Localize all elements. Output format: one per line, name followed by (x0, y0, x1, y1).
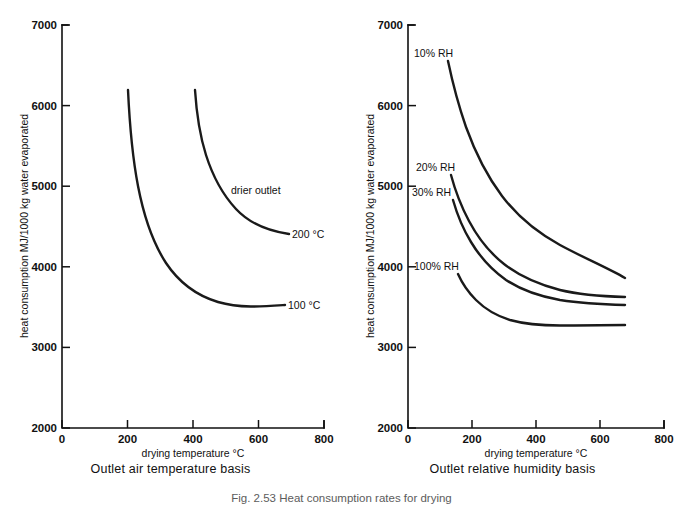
curve-20rh-path (451, 175, 625, 297)
x-axis-title: drying temperature °C (485, 447, 588, 459)
axis-lines (408, 25, 664, 428)
curve-label-100rh: 100% RH (414, 260, 459, 272)
x-axis-title: drying temperature °C (142, 447, 245, 459)
y-tick-label: 7000 (377, 19, 403, 31)
x-tick-label: 0 (405, 433, 411, 445)
y-tick-label: 4000 (31, 261, 57, 273)
y-axis-title: heat consumption MJ/1000 kg water evapor… (364, 114, 376, 338)
figure-root: 2000 3000 4000 5000 6000 7000 0 200 400 … (0, 0, 683, 505)
panel-caption-left: Outlet air temperature basis (0, 462, 341, 476)
y-tick-label: 5000 (31, 180, 57, 192)
x-tick-label: 400 (183, 433, 202, 445)
curve-100rh-path (458, 274, 625, 326)
y-tick-label: 6000 (31, 100, 57, 112)
curve-label-20rh: 20% RH (416, 161, 455, 173)
y-tick-label: 4000 (377, 261, 403, 273)
x-tick-label: 600 (249, 433, 268, 445)
x-axis-ticks (408, 420, 664, 428)
curve-30rh-path (453, 200, 625, 305)
curve-label-100c: 100 °C (288, 299, 321, 311)
axis-lines (62, 25, 324, 428)
x-axis-ticks (62, 420, 324, 428)
x-tick-label: 200 (462, 433, 481, 445)
y-axis-ticks (62, 25, 70, 428)
curve-200c-path (195, 90, 289, 234)
chart-panel-outlet-air-temperature: 2000 3000 4000 5000 6000 7000 0 200 400 … (0, 0, 341, 505)
y-tick-label: 5000 (377, 180, 403, 192)
y-tick-label: 6000 (377, 100, 403, 112)
y-tick-label: 3000 (377, 341, 403, 353)
x-tick-label: 0 (59, 433, 65, 445)
y-axis-ticks (408, 25, 416, 428)
y-tick-label: 2000 (377, 422, 403, 434)
curve-label-200c: 200 °C (292, 228, 325, 240)
y-tick-label: 2000 (31, 422, 57, 434)
panel-caption-right: Outlet relative humidity basis (342, 462, 683, 476)
x-tick-label: 600 (590, 433, 609, 445)
x-tick-label: 800 (314, 433, 333, 445)
x-tick-label: 200 (118, 433, 137, 445)
plot-outlet-relative-humidity: 2000 3000 4000 5000 6000 7000 0 200 400 … (342, 0, 683, 460)
chart-panel-outlet-relative-humidity: 2000 3000 4000 5000 6000 7000 0 200 400 … (342, 0, 683, 505)
y-tick-label: 7000 (31, 19, 57, 31)
x-tick-label: 800 (654, 433, 673, 445)
plot-outlet-air-temperature: 2000 3000 4000 5000 6000 7000 0 200 400 … (0, 0, 341, 460)
drier-outlet-annotation: drier outlet (231, 184, 281, 196)
y-axis-title: heat consumption MJ/1000 kg water evapor… (18, 114, 30, 338)
y-tick-label: 3000 (31, 341, 57, 353)
curve-100c-path (128, 90, 285, 307)
curve-label-30rh: 30% RH (412, 186, 451, 198)
x-tick-label: 400 (526, 433, 545, 445)
figure-caption: Fig. 2.53 Heat consumption rates for dry… (0, 492, 683, 504)
curve-label-10rh: 10% RH (414, 47, 453, 59)
